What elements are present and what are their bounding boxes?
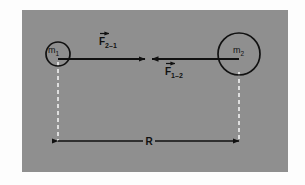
force-label-f2-1: F2–1 [99,36,117,49]
separation-label-r: R [145,136,153,147]
figure-root: m1 m2 F2–1 F1–2 R [0,0,305,185]
mass-label-m2: m2 [233,45,245,57]
force-label-f1-2: F1–2 [165,66,183,79]
mass-label-m1: m1 [48,45,60,57]
diagram-canvas: m1 m2 F2–1 F1–2 R [0,0,305,185]
